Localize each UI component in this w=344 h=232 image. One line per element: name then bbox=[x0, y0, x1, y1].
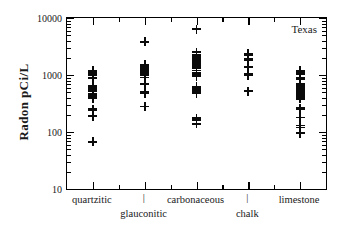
plot-inner bbox=[67, 18, 326, 189]
y-tick-major bbox=[67, 189, 74, 190]
x-tick-minor bbox=[171, 185, 172, 189]
y-tick-minor bbox=[67, 145, 71, 146]
data-point bbox=[244, 71, 253, 80]
y-tick-minor bbox=[67, 149, 71, 150]
data-point bbox=[192, 119, 201, 128]
y-tick-major bbox=[67, 75, 74, 76]
y-tick-minor-right bbox=[322, 145, 326, 146]
y-tick-minor-right bbox=[322, 141, 326, 142]
y-tick-minor-right bbox=[322, 98, 326, 99]
y-tick-minor bbox=[67, 31, 71, 32]
data-point bbox=[88, 137, 97, 146]
y-tick-minor bbox=[67, 98, 71, 99]
x-axis-label-connector: | bbox=[143, 193, 145, 204]
plot-annotation-region: Texas bbox=[292, 23, 318, 35]
y-tick-minor-right bbox=[322, 162, 326, 163]
y-tick-minor-right bbox=[322, 105, 326, 106]
y-tick-minor-right bbox=[322, 155, 326, 156]
y-tick-minor bbox=[67, 24, 71, 25]
radon-scatter-chart: Radon pCi/L Texas 10000100010010 quartzi… bbox=[0, 0, 344, 232]
x-tick-major bbox=[300, 182, 301, 189]
y-tick-major-right bbox=[319, 132, 326, 133]
y-tick-minor bbox=[67, 155, 71, 156]
data-point bbox=[140, 102, 149, 111]
x-tick-major bbox=[197, 182, 198, 189]
y-tick-minor-right bbox=[322, 84, 326, 85]
y-tick-minor-right bbox=[322, 58, 326, 59]
x-tick-major-top bbox=[248, 18, 249, 25]
y-tick-minor bbox=[67, 162, 71, 163]
y-tick-minor bbox=[67, 41, 71, 42]
y-tick-minor-right bbox=[322, 41, 326, 42]
y-tick-minor bbox=[67, 58, 71, 59]
y-tick-minor bbox=[67, 81, 71, 82]
y-tick-minor bbox=[67, 92, 71, 93]
y-tick-minor bbox=[67, 105, 71, 106]
data-point bbox=[88, 112, 97, 121]
data-point bbox=[192, 25, 201, 34]
y-tick-minor-right bbox=[322, 48, 326, 49]
data-point bbox=[88, 94, 97, 103]
x-axis-label-connector: | bbox=[246, 193, 248, 204]
x-tick-major-top bbox=[93, 18, 94, 25]
y-tick-minor-right bbox=[322, 115, 326, 116]
x-axis-label-glauconitic: glauconitic bbox=[120, 208, 167, 219]
x-axis-label-limestone: limestone bbox=[279, 194, 320, 205]
y-tick-major-right bbox=[319, 18, 326, 19]
y-tick-minor bbox=[67, 21, 71, 22]
x-axis-label-quartzitic: quartzitic bbox=[72, 194, 112, 205]
y-tick-label: 10 bbox=[52, 184, 62, 195]
y-tick-major bbox=[67, 18, 74, 19]
y-tick-minor-right bbox=[322, 21, 326, 22]
y-tick-minor bbox=[67, 141, 71, 142]
y-tick-minor-right bbox=[322, 92, 326, 93]
data-point bbox=[244, 87, 253, 96]
x-tick-minor-top bbox=[119, 18, 120, 22]
data-point bbox=[192, 72, 201, 81]
y-tick-minor-right bbox=[322, 149, 326, 150]
y-tick-minor bbox=[67, 27, 71, 28]
y-tick-label: 10000 bbox=[37, 13, 62, 24]
data-point bbox=[296, 94, 305, 103]
y-tick-label: 100 bbox=[47, 127, 62, 138]
y-tick-minor-right bbox=[322, 81, 326, 82]
y-tick-minor-right bbox=[322, 24, 326, 25]
y-tick-minor bbox=[67, 84, 71, 85]
y-tick-minor bbox=[67, 115, 71, 116]
y-tick-minor-right bbox=[322, 172, 326, 173]
y-tick-minor-right bbox=[322, 27, 326, 28]
y-axis-title: Radon pCi/L bbox=[16, 32, 32, 172]
x-tick-major bbox=[248, 182, 249, 189]
x-axis-label-chalk: chalk bbox=[236, 208, 259, 219]
data-point bbox=[140, 37, 149, 46]
y-tick-minor-right bbox=[322, 88, 326, 89]
y-tick-minor-right bbox=[322, 78, 326, 79]
y-tick-minor bbox=[67, 78, 71, 79]
y-tick-minor bbox=[67, 88, 71, 89]
x-tick-minor bbox=[119, 185, 120, 189]
data-point bbox=[296, 129, 305, 138]
y-tick-major-right bbox=[319, 75, 326, 76]
y-tick-minor-right bbox=[322, 31, 326, 32]
data-point bbox=[192, 89, 201, 98]
y-tick-minor bbox=[67, 138, 71, 139]
x-tick-minor bbox=[274, 185, 275, 189]
x-tick-minor-top bbox=[171, 18, 172, 22]
x-tick-minor bbox=[222, 185, 223, 189]
plot-area: Texas 10000100010010 bbox=[66, 17, 327, 190]
y-tick-minor-right bbox=[322, 138, 326, 139]
y-tick-minor bbox=[67, 35, 71, 36]
x-tick-minor-top bbox=[222, 18, 223, 22]
x-tick-minor-top bbox=[274, 18, 275, 22]
y-tick-minor-right bbox=[322, 135, 326, 136]
x-tick-major bbox=[93, 182, 94, 189]
y-tick-minor-right bbox=[322, 35, 326, 36]
data-point bbox=[140, 89, 149, 98]
y-tick-label: 1000 bbox=[42, 70, 62, 81]
y-tick-minor bbox=[67, 135, 71, 136]
x-tick-major-top bbox=[145, 18, 146, 25]
y-tick-major-right bbox=[319, 189, 326, 190]
y-tick-major bbox=[67, 132, 74, 133]
x-tick-major bbox=[145, 182, 146, 189]
y-tick-minor bbox=[67, 48, 71, 49]
